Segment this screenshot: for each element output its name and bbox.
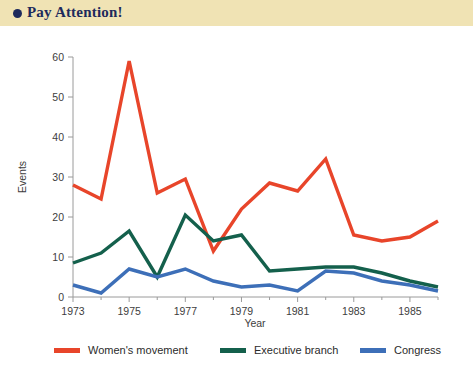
legend-item-congress[interactable]: Congress: [360, 342, 441, 358]
y-tick-label: 60: [52, 51, 64, 63]
circle-bullet-icon: [13, 9, 22, 18]
series-line: [73, 61, 438, 251]
legend-label-womens-movement: Women's movement: [88, 344, 188, 356]
chart-figure: 0102030405060 19731975197719791981198319…: [0, 26, 473, 385]
chart-legend: Women's movement Executive branch Congre…: [0, 342, 473, 364]
x-axis-ticks: 1973197519771979198119831985: [61, 297, 421, 317]
series-line: [73, 215, 438, 287]
legend-item-womens-movement[interactable]: Women's movement: [54, 342, 188, 358]
page-title: Pay Attention!: [27, 4, 123, 21]
x-tick-label: 1975: [117, 305, 141, 317]
x-tick-label: 1983: [342, 305, 366, 317]
y-tick-label: 0: [58, 291, 64, 303]
y-tick-label: 40: [52, 131, 64, 143]
header-banner: Pay Attention!: [0, 0, 473, 26]
x-tick-label: 1973: [61, 305, 85, 317]
y-axis-ticks: 0102030405060: [52, 51, 73, 303]
x-tick-label: 1977: [174, 305, 198, 317]
x-tick-label: 1985: [398, 305, 422, 317]
legend-swatch-congress: [360, 348, 386, 353]
y-tick-label: 20: [52, 211, 64, 223]
legend-label-executive-branch: Executive branch: [254, 344, 338, 356]
legend-item-executive-branch[interactable]: Executive branch: [220, 342, 338, 358]
y-tick-label: 30: [52, 171, 64, 183]
x-axis-title: Year: [244, 317, 266, 329]
legend-swatch-executive-branch: [220, 348, 246, 353]
x-tick-label: 1981: [286, 305, 310, 317]
series-lines-group: [73, 61, 438, 293]
legend-label-congress: Congress: [394, 344, 441, 356]
y-axis-title: Events: [16, 161, 28, 193]
line-chart: 0102030405060 19731975197719791981198319…: [0, 26, 473, 385]
legend-swatch-womens-movement: [54, 348, 80, 353]
x-tick-label: 1979: [230, 305, 254, 317]
y-tick-label: 10: [52, 251, 64, 263]
y-tick-label: 50: [52, 91, 64, 103]
